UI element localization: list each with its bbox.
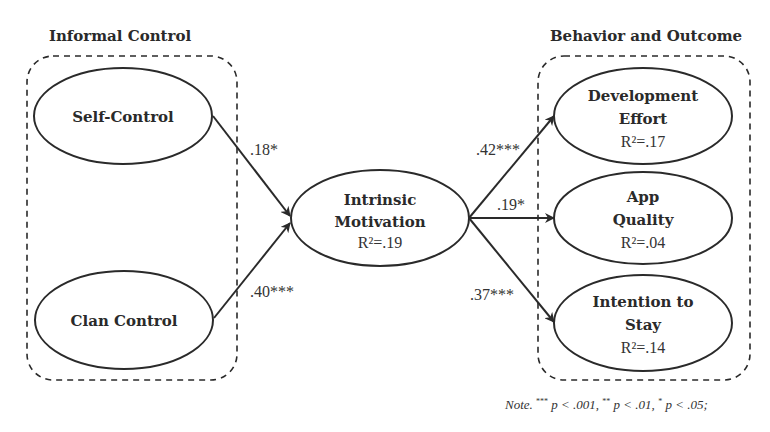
note-label: Note. xyxy=(504,397,533,412)
coef-motivation-to-quality: .19* xyxy=(497,196,525,213)
node-development-effort: Development Effort R²=.17 xyxy=(554,68,732,164)
node-development-effort-line2: Effort xyxy=(619,110,668,128)
node-intention-to-stay-line1: Intention to xyxy=(593,293,694,311)
node-intrinsic-motivation-line1: Intrinsic xyxy=(344,191,417,209)
node-self-control-label: Self-Control xyxy=(72,108,174,126)
coef-self-to-motivation: .18* xyxy=(250,141,278,158)
path-arrow-self-to-motivation xyxy=(213,116,290,216)
node-intention-to-stay: Intention to Stay R²=.14 xyxy=(554,275,732,371)
node-intrinsic-motivation-r2: R²=.19 xyxy=(358,234,403,251)
node-app-quality-r2: R²=.04 xyxy=(621,234,666,251)
node-intrinsic-motivation: Intrinsic Motivation R²=.19 xyxy=(291,170,469,266)
significance-note: Note. *** p < .001, ** p < .01, * p < .0… xyxy=(504,397,708,412)
group-title-behavior-outcome: Behavior and Outcome xyxy=(550,27,742,45)
note-text-p01: p < .01, xyxy=(610,397,658,412)
coef-motivation-to-effort: .42*** xyxy=(476,141,520,158)
node-app-quality: App Quality R²=.04 xyxy=(554,172,732,264)
path-arrow-clan-to-motivation xyxy=(214,223,290,318)
path-arrow-motivation-to-stay xyxy=(469,218,554,322)
node-app-quality-line2: Quality xyxy=(613,211,675,229)
note-text-p001: p < .001, xyxy=(548,397,602,412)
node-app-quality-line1: App xyxy=(626,188,660,206)
node-development-effort-line1: Development xyxy=(588,87,698,105)
structural-model-diagram: Informal Control Behavior and Outcome .1… xyxy=(0,0,770,432)
coef-clan-to-motivation: .40*** xyxy=(250,283,294,300)
node-intention-to-stay-r2: R²=.14 xyxy=(621,339,666,356)
node-self-control: Self-Control xyxy=(34,68,212,164)
node-clan-control-label: Clan Control xyxy=(71,312,178,330)
note-mark-p01: ** xyxy=(602,397,610,406)
node-intention-to-stay-line2: Stay xyxy=(625,316,662,334)
note-text-p05: p < .05; xyxy=(662,397,708,412)
node-intrinsic-motivation-line2: Motivation xyxy=(334,213,425,231)
node-clan-control: Clan Control xyxy=(35,271,213,369)
note-mark-p001: *** xyxy=(536,397,548,406)
node-development-effort-r2: R²=.17 xyxy=(621,133,666,150)
group-title-informal-control: Informal Control xyxy=(49,27,191,45)
coef-motivation-to-stay: .37*** xyxy=(470,286,514,303)
